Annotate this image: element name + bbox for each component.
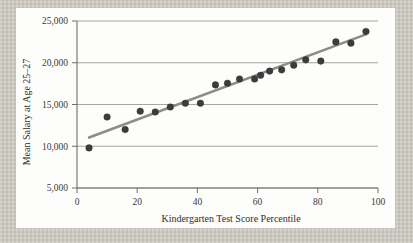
x-tick-label-40: 40 [193, 197, 203, 207]
data-point [137, 108, 144, 115]
y-tick-label-25000: 25,000 [42, 16, 68, 26]
y-tick-labels: 5,00010,00015,00020,00025,000 [42, 16, 68, 193]
data-point [104, 114, 111, 121]
data-point [197, 100, 204, 107]
y-tick-label-15000: 15,000 [42, 100, 68, 110]
y-tick-label-10000: 10,000 [42, 142, 68, 152]
data-point [363, 28, 370, 35]
y-tick-label-20000: 20,000 [42, 58, 68, 68]
data-point [152, 109, 159, 116]
x-tick-label-100: 100 [371, 197, 386, 207]
scatter-plot: 5,00010,00015,00020,00025,000 0204060801… [16, 8, 395, 228]
x-axis-title: Kindergarten Test Score Percentile [161, 213, 301, 224]
data-point [333, 39, 340, 46]
data-point [257, 72, 264, 79]
x-tick-labels: 020406080100 [75, 197, 386, 207]
data-point [212, 82, 219, 89]
y-tick-label-5000: 5,000 [47, 183, 69, 193]
data-point [86, 145, 93, 152]
data-point [182, 100, 189, 107]
data-point [290, 62, 297, 69]
x-tick-label-80: 80 [313, 197, 323, 207]
data-point [278, 67, 285, 74]
data-point [251, 76, 258, 83]
y-axis-title: Mean Salary at Age 25–27 [21, 59, 32, 166]
x-tick-label-0: 0 [75, 197, 80, 207]
figure-root: 5,00010,00015,00020,00025,000 0204060801… [0, 0, 413, 243]
x-tick-label-60: 60 [253, 197, 263, 207]
data-point [236, 76, 243, 83]
data-point [302, 57, 309, 64]
data-point [318, 58, 325, 65]
chart-card: 5,00010,00015,00020,00025,000 0204060801… [16, 8, 395, 228]
x-tick-label-20: 20 [132, 197, 142, 207]
data-point [348, 40, 355, 47]
data-point [266, 68, 273, 75]
data-point [224, 80, 231, 87]
data-point [167, 104, 174, 111]
data-point [122, 126, 129, 133]
data-markers [86, 28, 370, 151]
